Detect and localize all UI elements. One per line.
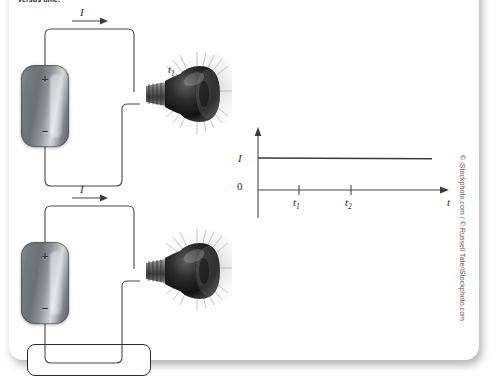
circuit-diagram-t1: + – I — [8, 8, 248, 183]
battery-positive-terminal: + — [21, 74, 69, 84]
current-label-top-t2: I — [80, 183, 84, 195]
battery-t2: + – — [21, 242, 69, 324]
time-label-t1-sub: 1 — [171, 69, 175, 78]
light-bulb-t1 — [136, 56, 228, 128]
current-vs-time-graph: I 0 t1 t2 t — [236, 122, 461, 220]
bulb-body — [136, 56, 228, 128]
graph-tick-label-t1: t1 — [293, 196, 300, 211]
graph-origin-label: 0 — [237, 180, 243, 192]
battery-negative-terminal: – — [21, 303, 69, 313]
light-bulb-t2 — [136, 233, 228, 305]
bulb-body — [136, 233, 228, 305]
graph-tick-t1-sub: 1 — [296, 202, 300, 211]
current-label-top-t1: I — [80, 6, 84, 18]
time-label-t1: t1 — [168, 63, 175, 78]
graph-y-axis-label: I — [238, 152, 242, 164]
figure-root: versus time. + – I — [0, 0, 497, 385]
battery-t1: + – — [21, 65, 69, 147]
battery-negative-terminal: – — [21, 126, 69, 136]
graph-tick-t2-sub: 2 — [348, 202, 352, 211]
caption-text: versus time. — [18, 0, 60, 3]
circuit-diagram-t2: + – I — [8, 185, 248, 360]
graph-tick-label-t2: t2 — [345, 196, 352, 211]
image-credit: © iStockphoto.com / © Russell Tate/iStoc… — [459, 155, 466, 321]
graph-x-axis-label: t — [447, 196, 450, 208]
battery-positive-terminal: + — [21, 251, 69, 261]
